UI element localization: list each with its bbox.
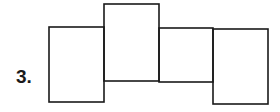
rect-2: [104, 4, 159, 81]
rectangle-net-diagram: [0, 0, 280, 112]
rect-1: [49, 27, 104, 102]
rect-3: [159, 28, 213, 82]
rect-4: [213, 29, 268, 104]
